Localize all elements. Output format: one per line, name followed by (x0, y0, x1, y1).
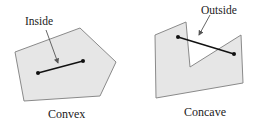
convex-figure (15, 28, 116, 101)
outside-arrow-icon (199, 15, 210, 35)
segment-endpoint (81, 59, 85, 63)
convex-polygon (15, 28, 116, 101)
convex-caption: Convex (48, 108, 85, 120)
concave-polygon (155, 22, 243, 98)
segment-endpoint (232, 52, 236, 56)
segment-endpoint (176, 35, 180, 39)
outside-label: Outside (201, 5, 237, 17)
concave-figure (155, 15, 243, 98)
segment-endpoint (36, 71, 40, 75)
inside-label: Inside (25, 16, 53, 28)
concave-caption: Concave (184, 106, 226, 118)
